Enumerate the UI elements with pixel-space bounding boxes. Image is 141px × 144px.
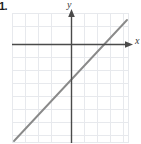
coordinate-graph (0, 0, 141, 144)
x-axis-label: x (135, 36, 139, 46)
y-axis-label: y (67, 0, 71, 10)
graph-figure: 1. (0, 0, 141, 144)
